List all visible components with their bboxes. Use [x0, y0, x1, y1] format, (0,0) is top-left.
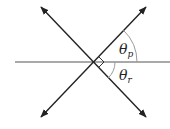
theta-r-label: θr: [119, 68, 132, 87]
theta-p-subscript: p: [127, 49, 133, 59]
theta-r-arc: [108, 62, 115, 78]
theta-r-subscript: r: [127, 75, 131, 85]
angle-diagram: [0, 0, 170, 129]
theta-p-label: θp: [119, 42, 133, 61]
